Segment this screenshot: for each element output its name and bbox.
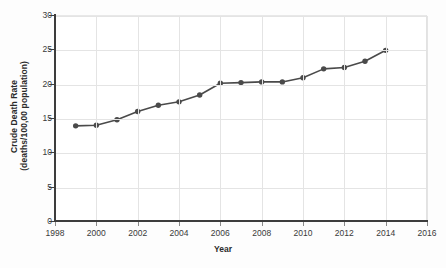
- y-axis-tick-mark: [49, 152, 54, 153]
- gridline-horizontal: [55, 50, 426, 51]
- y-axis-title-line-2: (deaths/100,00 population): [19, 61, 30, 171]
- x-axis-title: Year: [0, 244, 446, 254]
- y-axis-tick-mark: [49, 15, 54, 16]
- x-axis-tick-mark: [386, 222, 387, 226]
- gridline-vertical: [344, 16, 345, 221]
- x-axis-tick-label: 2010: [294, 228, 313, 238]
- y-axis-tick-mark: [49, 84, 54, 85]
- data-point-marker: [156, 103, 161, 108]
- y-axis-title-line-1: Crude Death Rate: [9, 80, 20, 153]
- x-axis-tick-mark: [179, 222, 180, 226]
- gridline-vertical: [96, 16, 97, 221]
- y-axis-tick-mark: [49, 221, 54, 222]
- y-axis-tick-labels: 051015202530: [30, 0, 52, 232]
- gridline-horizontal: [55, 16, 426, 17]
- x-axis-tick-mark: [344, 222, 345, 226]
- data-point-marker: [362, 59, 367, 64]
- x-axis-tick-mark: [220, 222, 221, 226]
- x-axis-line: [54, 220, 428, 222]
- x-axis-tick-label: 2016: [418, 228, 437, 238]
- gridline-vertical: [179, 16, 180, 221]
- gridline-vertical: [386, 16, 387, 221]
- x-axis-tick-mark: [262, 222, 263, 226]
- x-axis-tick-label: 2012: [335, 228, 354, 238]
- data-point-marker: [321, 66, 326, 71]
- gridline-horizontal: [55, 85, 426, 86]
- x-axis-tick-label: 2006: [211, 228, 230, 238]
- gridline-vertical: [303, 16, 304, 221]
- x-axis-tick-mark: [55, 222, 56, 226]
- gridline-horizontal: [55, 153, 426, 154]
- gridline-vertical: [220, 16, 221, 221]
- series-line: [76, 50, 386, 126]
- y-axis-tick-mark: [49, 118, 54, 119]
- x-axis-tick-mark: [427, 222, 428, 226]
- x-axis-tick-label: 1998: [46, 228, 65, 238]
- x-axis-tick-label: 2000: [87, 228, 106, 238]
- x-axis-tick-label: 2014: [376, 228, 395, 238]
- data-point-marker: [197, 92, 202, 97]
- gridline-vertical: [427, 16, 428, 221]
- x-axis-tick-mark: [138, 222, 139, 226]
- chart-container: Crude Death Rate (deaths/100,00 populati…: [0, 0, 446, 268]
- x-axis-tick-label: 2002: [128, 228, 147, 238]
- gridline-vertical: [262, 16, 263, 221]
- gridline-vertical: [138, 16, 139, 221]
- y-axis-tick-mark: [49, 187, 54, 188]
- data-point-marker: [73, 123, 78, 128]
- x-axis-tick-label: 2004: [170, 228, 189, 238]
- plot-area: [55, 15, 427, 221]
- x-axis-tick-mark: [303, 222, 304, 226]
- y-axis-line: [54, 14, 56, 222]
- gridline-horizontal: [55, 188, 426, 189]
- gridline-horizontal: [55, 119, 426, 120]
- x-axis-tick-label: 2008: [252, 228, 271, 238]
- x-axis-tick-mark: [96, 222, 97, 226]
- y-axis-tick-mark: [49, 49, 54, 50]
